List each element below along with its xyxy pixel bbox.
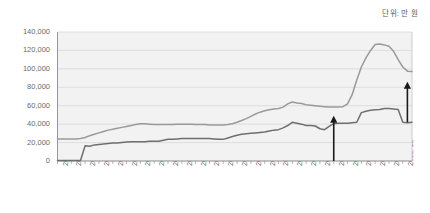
plot-area xyxy=(0,0,430,213)
plot-background xyxy=(58,32,413,161)
chart-container: 단위: 만 원 140,000120,000100,00080,00060,00… xyxy=(0,0,430,213)
